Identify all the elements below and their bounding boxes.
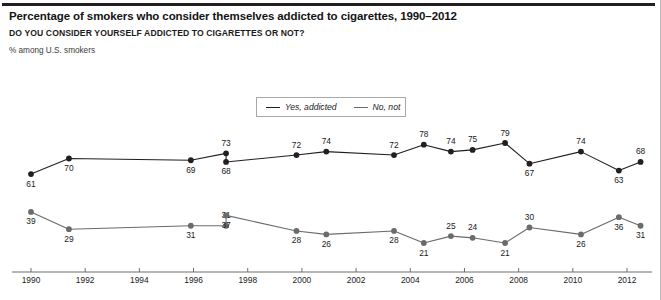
data-point-label: 37 (221, 220, 231, 230)
x-axis-tick-label: 2008 (509, 275, 528, 285)
data-point-label: 29 (64, 234, 74, 244)
data-point-marker[interactable] (578, 149, 584, 155)
x-axis-tick-label: 1996 (184, 275, 203, 285)
data-point-label: 26 (322, 239, 332, 249)
data-series-2: 39293131372826282125242130263631 (26, 209, 645, 257)
legend-item-1[interactable]: Yes, addicted (266, 102, 337, 112)
data-point-marker[interactable] (66, 226, 72, 232)
data-point-marker[interactable] (448, 149, 454, 155)
data-point-label: 24 (468, 222, 478, 232)
data-point-marker[interactable] (502, 140, 508, 146)
data-point-marker[interactable] (323, 231, 329, 237)
series-line (31, 143, 641, 174)
series-line (31, 212, 641, 243)
data-point-label: 39 (26, 216, 36, 226)
x-axis: 1990199219941996199820002002200420062008… (12, 268, 652, 285)
x-axis-tick-label: 2006 (455, 275, 474, 285)
data-point-marker[interactable] (527, 225, 533, 231)
data-point-marker[interactable] (28, 209, 34, 215)
x-axis-tick-label: 1992 (76, 275, 95, 285)
x-axis-tick-label: 2000 (293, 275, 312, 285)
data-point-marker[interactable] (638, 159, 644, 165)
data-point-marker[interactable] (421, 142, 427, 148)
data-point-label: 61 (26, 179, 36, 189)
data-point-marker[interactable] (223, 213, 229, 219)
data-point-label: 21 (500, 248, 510, 258)
x-axis-tick-label: 2012 (618, 275, 637, 285)
x-axis-tick-label: 2010 (563, 275, 582, 285)
data-point-marker[interactable] (448, 233, 454, 239)
line-chart-plot: 1990199219941996199820002002200420062008… (0, 0, 661, 300)
data-point-marker[interactable] (66, 156, 72, 162)
x-axis-tick-label: 2004 (401, 275, 420, 285)
data-point-marker[interactable] (578, 231, 584, 237)
chart-figure: Percentage of smokers who consider thems… (0, 0, 661, 300)
data-point-label: 25 (446, 221, 456, 231)
data-point-marker[interactable] (470, 235, 476, 241)
legend-line-swatch (354, 107, 368, 108)
data-point-label: 73 (221, 138, 231, 148)
data-point-label: 68 (221, 166, 231, 176)
data-point-label: 28 (292, 235, 302, 245)
data-point-label: 74 (322, 136, 332, 146)
data-point-marker[interactable] (391, 152, 397, 158)
data-point-label: 72 (292, 140, 302, 150)
data-point-marker[interactable] (470, 147, 476, 153)
data-point-label: 75 (468, 134, 478, 144)
data-point-marker[interactable] (616, 214, 622, 220)
data-point-marker[interactable] (188, 223, 194, 229)
data-point-marker[interactable] (28, 171, 34, 177)
legend-item-label: Yes, addicted (285, 102, 337, 112)
x-axis-tick-label: 1990 (22, 275, 41, 285)
data-point-marker[interactable] (294, 228, 300, 234)
data-point-label: 36 (614, 222, 624, 232)
data-point-marker[interactable] (391, 228, 397, 234)
data-point-marker[interactable] (323, 149, 329, 155)
data-point-marker[interactable] (188, 157, 194, 163)
data-point-marker[interactable] (616, 168, 622, 174)
legend-item-2[interactable]: No, not (354, 102, 401, 112)
data-point-marker[interactable] (223, 159, 229, 165)
chart-legend: Yes, addictedNo, not (256, 97, 406, 117)
data-point-label: 69 (186, 165, 196, 175)
data-point-label: 78 (419, 129, 429, 139)
data-point-label: 31 (186, 230, 196, 240)
data-point-marker[interactable] (527, 161, 533, 167)
data-point-marker[interactable] (638, 223, 644, 229)
x-axis-tick-label: 2002 (347, 275, 366, 285)
data-series-1: 61706973687274727874757967746368 (26, 128, 645, 189)
data-point-marker[interactable] (223, 150, 229, 156)
data-point-label: 72 (389, 140, 399, 150)
data-point-label: 28 (389, 235, 399, 245)
data-point-label: 31 (636, 230, 646, 240)
data-point-label: 26 (576, 239, 586, 249)
x-axis-tick-label: 1998 (238, 275, 257, 285)
legend-item-label: No, not (373, 102, 401, 112)
x-axis-tick-label: 1994 (130, 275, 149, 285)
legend-line-swatch (266, 107, 280, 108)
data-point-label: 74 (446, 136, 456, 146)
data-point-marker[interactable] (421, 240, 427, 246)
data-point-label: 79 (500, 128, 510, 138)
data-point-label: 67 (525, 168, 535, 178)
data-point-label: 63 (614, 175, 624, 185)
data-point-marker[interactable] (502, 240, 508, 246)
data-point-marker[interactable] (294, 152, 300, 158)
data-point-label: 74 (576, 136, 586, 146)
data-point-label: 70 (64, 163, 74, 173)
data-point-label: 21 (419, 248, 429, 258)
data-point-label: 30 (525, 212, 535, 222)
data-point-label: 68 (636, 146, 646, 156)
